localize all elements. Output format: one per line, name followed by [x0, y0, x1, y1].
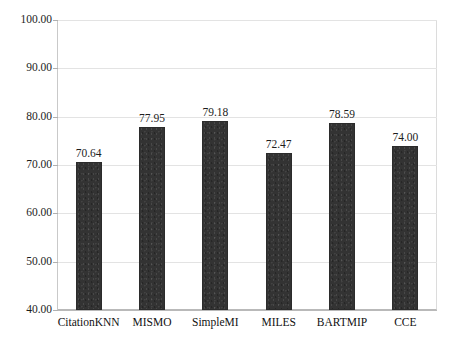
value-label-bartmip: 78.59	[312, 108, 372, 120]
gridline-80.00	[57, 117, 437, 118]
bar-mismo	[139, 127, 165, 310]
gridline-50.00	[57, 262, 437, 263]
y-tick-label-text: 70.00	[0, 159, 52, 171]
y-tick-mark-50.00	[53, 262, 58, 263]
y-tick-label-text: 50.00	[0, 256, 52, 268]
bar-chart-figure: 100.0090.0080.0070.0060.0050.0040.00 70.…	[0, 0, 450, 343]
y-tick-label: 90.00	[0, 62, 52, 74]
y-tick-label: 100.00	[0, 14, 52, 26]
x-label-cce: CCE	[365, 316, 445, 329]
bar-miles	[266, 153, 292, 310]
value-label-miles: 72.47	[249, 138, 309, 150]
y-tick-mark-100.00	[53, 20, 58, 21]
y-tick-label: 70.00	[0, 159, 52, 171]
y-tick-label-text: 60.00	[0, 207, 52, 219]
y-tick-mark-60.00	[53, 213, 58, 214]
gridline-100.00	[57, 20, 437, 21]
gridline-60.00	[57, 213, 437, 214]
y-tick-mark-40.00	[53, 310, 58, 311]
y-tick-label-text: 40.00	[0, 304, 52, 316]
gridline-90.00	[57, 68, 437, 69]
value-label-simplemi: 79.18	[185, 106, 245, 118]
y-tick-label-text: 80.00	[0, 111, 52, 123]
bar-cce	[392, 146, 418, 310]
top-cut-text	[18, 0, 248, 4]
y-tick-mark-90.00	[53, 68, 58, 69]
y-tick-mark-70.00	[53, 165, 58, 166]
value-label-mismo: 77.95	[122, 112, 182, 124]
y-tick-label-text: 100.00	[0, 14, 52, 26]
gridline-70.00	[57, 165, 437, 166]
y-tick-label: 40.00	[0, 304, 52, 316]
bar-citationknn	[76, 162, 102, 310]
value-label-citationknn: 70.64	[59, 147, 119, 159]
y-tick-mark-80.00	[53, 117, 58, 118]
value-label-cce: 74.00	[375, 131, 435, 143]
bar-simplemi	[202, 121, 228, 310]
bar-bartmip	[329, 123, 355, 310]
y-tick-label: 80.00	[0, 111, 52, 123]
y-tick-label: 60.00	[0, 207, 52, 219]
y-tick-label: 50.00	[0, 256, 52, 268]
gridline-40.00	[57, 310, 437, 311]
y-tick-label-text: 90.00	[0, 62, 52, 74]
